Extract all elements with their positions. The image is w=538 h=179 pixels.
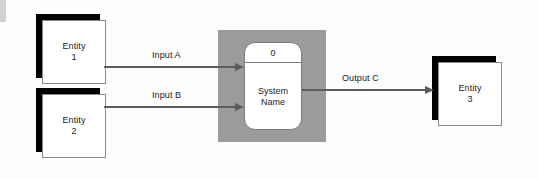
process-number: 0 (245, 43, 301, 63)
entity-1-label-line1: Entity (62, 41, 85, 52)
process-name-line1: System (258, 86, 288, 97)
edge-artifact (0, 0, 6, 22)
flow-input-b-arrowhead (235, 103, 244, 111)
entity-box-2[interactable]: Entity 2 (36, 88, 107, 159)
process-name-line2: Name (261, 97, 285, 108)
flow-output-c-arrowhead (425, 86, 434, 94)
entity-3-face: Entity 3 (438, 62, 502, 126)
entity-2-face: Entity 2 (42, 94, 106, 158)
entity-2-label-line1: Entity (62, 115, 85, 126)
flow-output-c[interactable]: Output C (302, 89, 435, 91)
process-name: System Name (245, 63, 301, 130)
entity-3-label-line1: Entity (458, 83, 481, 94)
flow-input-a-arrowhead (235, 63, 244, 71)
flow-input-b[interactable]: Input B (104, 106, 244, 108)
flow-input-a-label: Input A (152, 50, 181, 60)
flow-output-c-label: Output C (342, 73, 379, 83)
entity-3-label-line2: 3 (467, 94, 472, 105)
entity-1-label-line2: 1 (71, 52, 76, 63)
entity-box-1[interactable]: Entity 1 (36, 14, 107, 85)
flow-output-c-shaft (302, 89, 425, 91)
process-node[interactable]: 0 System Name (244, 42, 302, 130)
entity-box-3[interactable]: Entity 3 (432, 56, 503, 127)
diagram-canvas: Entity 1 Entity 2 Entity 3 0 System Name… (0, 0, 538, 179)
flow-input-b-shaft (104, 106, 235, 108)
entity-1-face: Entity 1 (42, 20, 106, 84)
flow-input-b-label: Input B (152, 90, 181, 100)
entity-2-label-line2: 2 (71, 126, 76, 137)
flow-input-a-shaft (104, 66, 235, 68)
flow-input-a[interactable]: Input A (104, 66, 244, 68)
